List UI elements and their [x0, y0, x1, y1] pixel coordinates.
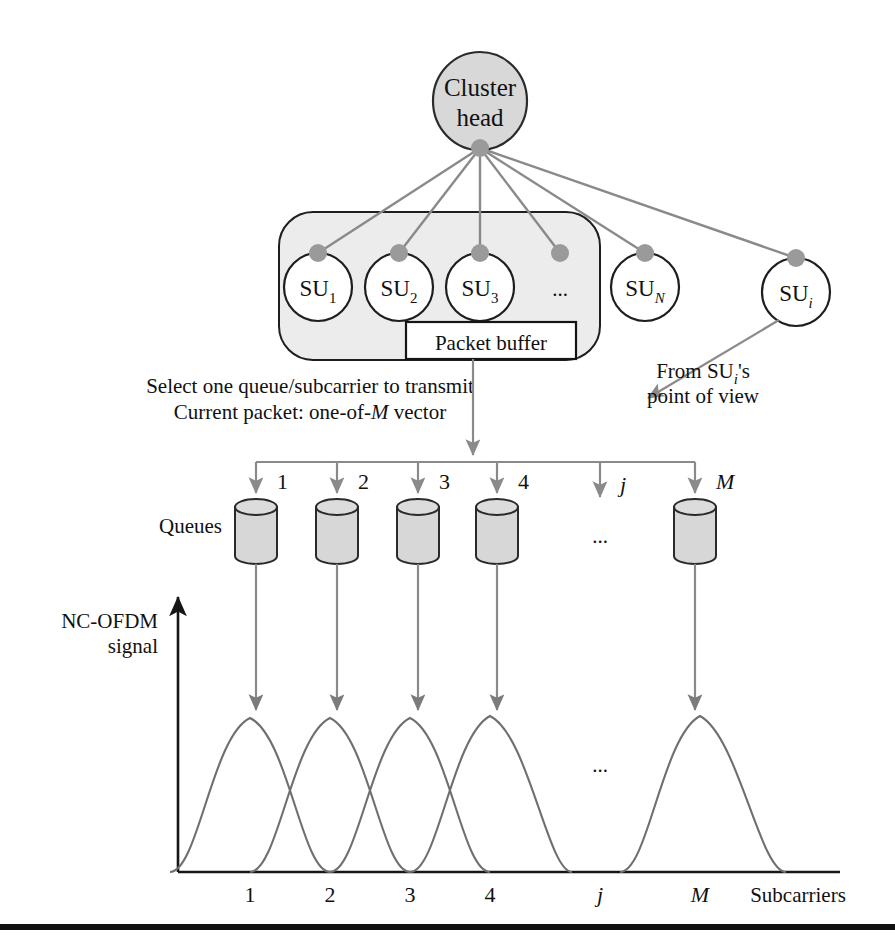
lobe-curve-4: [410, 716, 572, 872]
queues-label: Queues: [159, 514, 222, 538]
nc-ofdm-cluster-diagram: Cluster head SU1 SU2 SU3 ... SUN: [0, 0, 895, 946]
queue-index-4: 4: [518, 469, 529, 494]
su-node-i[interactable]: SUi: [762, 249, 830, 326]
x-tick-3: 3: [405, 882, 416, 907]
pov-note-line2: point of view: [647, 384, 760, 408]
signal-label-line2: signal: [108, 634, 158, 658]
bottom-rule: [0, 924, 895, 930]
x-tick-j: j: [594, 882, 603, 907]
queue-distribution-bus: [256, 462, 695, 497]
queue-index-m: M: [715, 469, 736, 494]
queue-cylinder-4[interactable]: [476, 499, 518, 564]
cluster-head-node[interactable]: Cluster head: [433, 52, 527, 157]
queue-index-1: 1: [277, 469, 288, 494]
select-note-line2: Current packet: one-of-M vector: [174, 400, 446, 424]
cluster-head-connector-dot: [471, 139, 489, 157]
su-node-2-dot: [390, 244, 408, 262]
su-node-ellipsis-dot: [551, 244, 569, 262]
x-tick-m: M: [690, 882, 711, 907]
packet-buffer-box[interactable]: Packet buffer: [406, 322, 576, 359]
su-node-n-dot: [636, 244, 654, 262]
curve-ellipsis-label: ...: [592, 753, 608, 777]
cluster-head-label-line2: head: [456, 104, 504, 131]
queue-cylinder-3[interactable]: [397, 499, 439, 564]
su-node-ellipsis-label: ...: [552, 277, 568, 301]
figure-canvas: Cluster head SU1 SU2 SU3 ... SUN: [0, 0, 895, 946]
queue-to-subcarrier-arrows: [256, 564, 695, 710]
select-note-line1: Select one queue/subcarrier to transmit: [146, 374, 474, 398]
cluster-head-label-line1: Cluster: [444, 74, 517, 101]
cluster-head-circle: [433, 52, 527, 150]
lobe-curve-m: [620, 716, 786, 872]
signal-label-line1: NC-OFDM: [61, 609, 158, 633]
lobe-curve-3: [330, 718, 490, 872]
x-axis-title: Subcarriers: [750, 883, 846, 907]
lobe-curve-2: [250, 718, 410, 872]
x-tick-2: 2: [325, 882, 336, 907]
pov-note-line1: From SUi's: [656, 359, 750, 387]
su-node-3-dot: [471, 244, 489, 262]
x-tick-1: 1: [245, 882, 256, 907]
su-node-i-dot: [787, 249, 805, 267]
packet-buffer-label: Packet buffer: [435, 331, 547, 355]
queue-index-j: j: [617, 472, 626, 497]
queue-index-3: 3: [439, 469, 450, 494]
subcarrier-lobe-curves: [170, 716, 786, 872]
queue-cylinder-1[interactable]: [235, 499, 277, 564]
su-node-n[interactable]: SUN: [611, 244, 679, 321]
lobe-curve-1: [170, 718, 330, 872]
queue-cylinder-m[interactable]: [674, 499, 716, 564]
x-tick-4: 4: [485, 882, 496, 907]
su-node-1-dot: [309, 244, 327, 262]
queue-ellipsis-label: ...: [592, 524, 608, 548]
queue-cylinder-2[interactable]: [316, 499, 358, 564]
queue-index-2: 2: [358, 469, 369, 494]
